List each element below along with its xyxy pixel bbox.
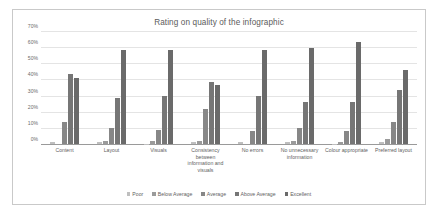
- y-axis-tick-label: 10%: [28, 120, 38, 126]
- legend-swatch-icon: [235, 192, 239, 196]
- bar-group: [135, 32, 182, 144]
- y-axis-tick-label: 20%: [28, 104, 38, 110]
- bar: [244, 144, 249, 145]
- y-axis-tick-label: 40%: [28, 71, 38, 77]
- chart-title: Rating on quality of the infographic: [13, 18, 425, 27]
- legend-item[interactable]: Below Average: [152, 191, 192, 197]
- y-axis-tick-label: 70%: [28, 23, 38, 29]
- bar: [356, 42, 361, 144]
- bar: [197, 141, 202, 144]
- bar: [332, 144, 337, 145]
- bar: [285, 142, 290, 144]
- legend-item[interactable]: Above Average: [235, 191, 276, 197]
- bar: [56, 144, 61, 145]
- legend-label: Above Average: [241, 191, 276, 197]
- x-axis-category-label: Preferred layout: [370, 147, 417, 173]
- x-axis-line: [41, 144, 417, 145]
- x-axis-category-label: Layout: [88, 147, 135, 173]
- bar: [262, 50, 267, 144]
- legend-label: Excellent: [290, 191, 311, 197]
- legend-item[interactable]: Average: [201, 191, 226, 197]
- bar: [103, 141, 108, 144]
- x-axis-category-label: No unnecessary information: [276, 147, 323, 173]
- legend-item[interactable]: Excellent: [285, 191, 312, 197]
- chart-legend: PoorBelow AverageAverageAbove AverageExc…: [13, 191, 425, 197]
- bar: [309, 48, 314, 144]
- bar: [379, 142, 384, 144]
- bar: [68, 74, 73, 144]
- legend-swatch-icon: [285, 192, 289, 196]
- bar-groups: [41, 32, 417, 144]
- legend-swatch-icon: [127, 192, 131, 196]
- legend-label: Below Average: [158, 191, 193, 197]
- y-axis-tick-label: 50%: [28, 55, 38, 61]
- bar: [344, 131, 349, 144]
- bar-group: [182, 32, 229, 144]
- bar: [385, 139, 390, 144]
- bar-group: [370, 32, 417, 144]
- bar: [238, 142, 243, 144]
- bar: [397, 90, 402, 144]
- bar: [203, 109, 208, 144]
- bar-group: [229, 32, 276, 144]
- bar: [109, 128, 114, 144]
- legend-item[interactable]: Poor: [127, 191, 143, 197]
- bar: [256, 96, 261, 144]
- bar: [209, 82, 214, 144]
- bar: [168, 50, 173, 144]
- bar: [191, 142, 196, 144]
- bar: [297, 128, 302, 144]
- x-axis-category-label: Consistency between information and visu…: [182, 147, 229, 173]
- bar: [97, 142, 102, 144]
- plot-area: 0%10%20%30%40%50%60%70%: [41, 32, 417, 145]
- legend-label: Poor: [132, 191, 143, 197]
- bar: [150, 141, 155, 144]
- bar: [144, 144, 149, 145]
- x-axis-category-labels: ContentLayoutVisualsConsistency between …: [41, 147, 417, 173]
- bar-group: [323, 32, 370, 144]
- y-axis-tick-label: 60%: [28, 39, 38, 45]
- bar: [350, 102, 355, 144]
- bar: [74, 78, 79, 144]
- y-axis-tick-label: 0%: [31, 136, 38, 142]
- bar: [250, 131, 255, 144]
- bar: [121, 50, 126, 144]
- legend-swatch-icon: [201, 192, 205, 196]
- bar: [115, 98, 120, 144]
- x-axis-category-label: No errors: [229, 147, 276, 173]
- bar: [291, 141, 296, 144]
- bar: [403, 70, 408, 144]
- bar: [303, 102, 308, 144]
- y-axis-tick-label: 30%: [28, 88, 38, 94]
- chart-container: Rating on quality of the infographic 0%1…: [12, 9, 426, 205]
- bar: [215, 85, 220, 144]
- bar-group: [276, 32, 323, 144]
- x-axis-category-label: Colour appropriate: [323, 147, 370, 173]
- bar: [156, 130, 161, 144]
- legend-label: Average: [207, 191, 226, 197]
- legend-swatch-icon: [152, 192, 156, 196]
- bar-group: [88, 32, 135, 144]
- x-axis-category-label: Visuals: [135, 147, 182, 173]
- bar: [50, 142, 55, 144]
- bar: [162, 96, 167, 144]
- bar: [62, 122, 67, 144]
- x-axis-category-label: Content: [41, 147, 88, 173]
- bar: [391, 122, 396, 144]
- bar-group: [41, 32, 88, 144]
- bar: [338, 142, 343, 144]
